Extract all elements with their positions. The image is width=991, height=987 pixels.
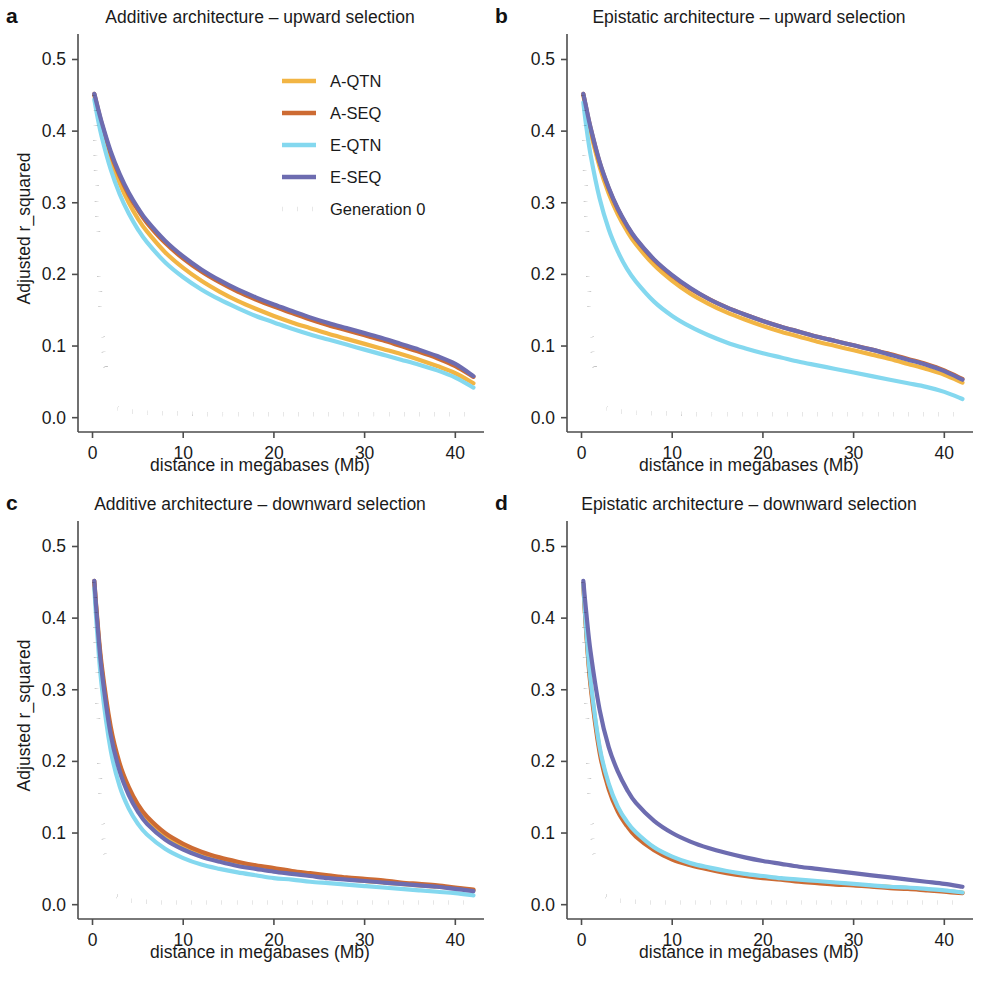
x-tick-label: 40 bbox=[446, 930, 466, 950]
x-tick-label: 20 bbox=[264, 443, 284, 463]
figure-container: a Additive architecture – upward selecti… bbox=[0, 0, 991, 987]
x-tick-label: 0 bbox=[577, 443, 587, 463]
y-tick-label: 0.3 bbox=[531, 193, 555, 213]
y-tick-label: 0.1 bbox=[42, 823, 66, 843]
legend-label-e-qtn: E-QTN bbox=[330, 136, 381, 154]
y-tick-label: 0.1 bbox=[42, 336, 66, 356]
series-line-e-qtn bbox=[583, 584, 962, 892]
y-tick-label: 0.5 bbox=[42, 49, 66, 69]
y-tick-label: 0.0 bbox=[42, 408, 67, 428]
series-line-a-seq bbox=[583, 584, 962, 893]
x-tick-label: 30 bbox=[844, 443, 864, 463]
y-tick-label: 0.0 bbox=[42, 895, 67, 915]
x-tick-label: 10 bbox=[662, 443, 682, 463]
x-tick-label: 20 bbox=[753, 443, 773, 463]
y-tick-label: 0.3 bbox=[42, 193, 66, 213]
series-line-e-seq bbox=[583, 94, 962, 380]
y-tick-label: 0.4 bbox=[531, 608, 556, 628]
y-tick-label: 0.3 bbox=[531, 680, 555, 700]
x-tick-label: 0 bbox=[88, 930, 98, 950]
series-line-a-qtn bbox=[94, 95, 473, 383]
y-tick-label: 0.5 bbox=[531, 49, 555, 69]
series-line-e-qtn bbox=[94, 588, 473, 895]
series-line-a-qtn bbox=[94, 584, 473, 891]
series-line-generation-0 bbox=[583, 582, 962, 902]
series-line-generation-0 bbox=[94, 582, 473, 902]
series-line-generation-0 bbox=[583, 95, 962, 414]
plot-area-d: 0.00.10.20.30.40.5010203040 bbox=[489, 487, 984, 980]
y-tick-label: 0.0 bbox=[531, 895, 556, 915]
series-line-e-seq bbox=[94, 581, 473, 891]
x-tick-label: 0 bbox=[577, 930, 587, 950]
series-line-a-seq bbox=[583, 94, 962, 379]
x-tick-label: 40 bbox=[446, 443, 466, 463]
y-tick-label: 0.4 bbox=[42, 121, 67, 141]
x-tick-label: 10 bbox=[173, 443, 193, 463]
y-tick-label: 0.2 bbox=[42, 751, 66, 771]
y-tick-label: 0.2 bbox=[531, 264, 555, 284]
legend-label-a-qtn: A-QTN bbox=[330, 72, 381, 90]
series-line-a-qtn bbox=[583, 585, 962, 892]
x-tick-label: 30 bbox=[355, 930, 375, 950]
y-tick-label: 0.1 bbox=[531, 336, 555, 356]
y-tick-label: 0.0 bbox=[531, 408, 556, 428]
legend-label-e-seq: E-SEQ bbox=[330, 168, 382, 186]
x-tick-label: 20 bbox=[264, 930, 284, 950]
plot-area-b: 0.00.10.20.30.40.5010203040 bbox=[489, 0, 984, 493]
x-tick-label: 10 bbox=[662, 930, 682, 950]
series-line-a-qtn bbox=[583, 95, 962, 382]
y-tick-label: 0.4 bbox=[42, 608, 67, 628]
y-tick-label: 0.1 bbox=[531, 823, 555, 843]
y-tick-label: 0.5 bbox=[42, 536, 66, 556]
y-tick-label: 0.5 bbox=[531, 536, 555, 556]
x-tick-label: 30 bbox=[355, 443, 375, 463]
series-line-a-seq bbox=[94, 581, 473, 890]
y-tick-label: 0.4 bbox=[531, 121, 556, 141]
y-tick-label: 0.3 bbox=[42, 680, 66, 700]
y-tick-label: 0.2 bbox=[42, 264, 66, 284]
y-tick-label: 0.2 bbox=[531, 751, 555, 771]
x-tick-label: 40 bbox=[935, 443, 955, 463]
plot-area-a: 0.00.10.20.30.40.5010203040A-QTNA-SEQE-Q… bbox=[0, 0, 495, 493]
x-tick-label: 10 bbox=[173, 930, 193, 950]
x-tick-label: 40 bbox=[935, 930, 955, 950]
plot-area-c: 0.00.10.20.30.40.5010203040 bbox=[0, 487, 495, 980]
x-tick-label: 30 bbox=[844, 930, 864, 950]
legend-label-generation-0: Generation 0 bbox=[330, 200, 425, 218]
panel-c: c Additive architecture – downward selec… bbox=[0, 487, 495, 980]
panel-d: d Epistatic architecture – downward sele… bbox=[489, 487, 984, 980]
legend-label-a-seq: A-SEQ bbox=[330, 104, 382, 122]
x-tick-label: 0 bbox=[88, 443, 98, 463]
panel-b: b Epistatic architecture – upward select… bbox=[489, 0, 984, 493]
x-tick-label: 20 bbox=[753, 930, 773, 950]
panel-a: a Additive architecture – upward selecti… bbox=[0, 0, 495, 493]
